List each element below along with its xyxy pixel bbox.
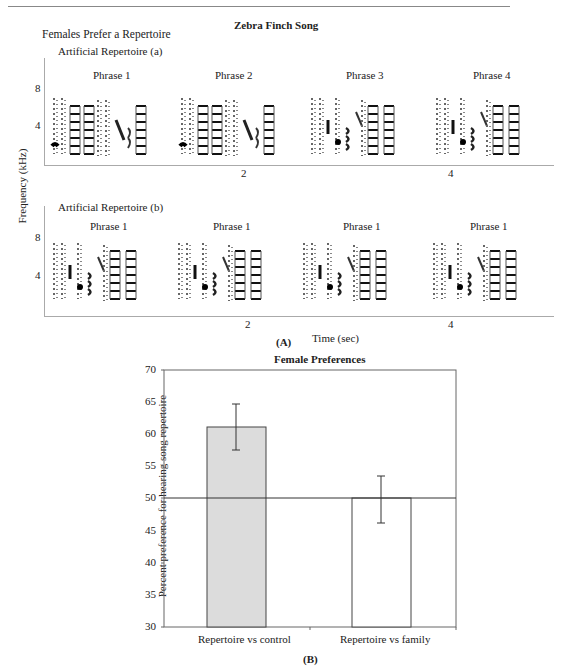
bar-chart-plot [0, 0, 572, 671]
xcat-repertoire-vs-family: Repertoire vs family [340, 633, 430, 645]
xcat-repertoire-vs-control: Repertoire vs control [198, 633, 291, 645]
bar-repertoire-vs-control [207, 427, 266, 627]
panel-b-label: (B) [303, 653, 318, 665]
